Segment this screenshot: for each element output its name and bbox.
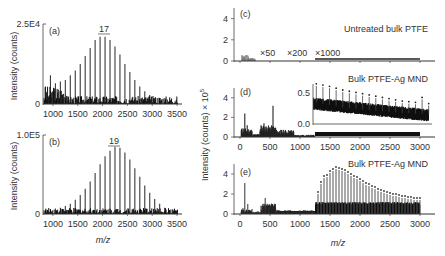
svg-text:2500: 2500 [380, 142, 400, 152]
panel-c: 420 (c) Untreated bulk PTFE ×50 ×200 ×10… [223, 8, 435, 66]
panel-e-label: (e) [240, 167, 251, 177]
panel-b-ytick-top: 1.0E5 [16, 130, 40, 140]
right-ylabel: Intensity (counts) × 105 [199, 88, 210, 181]
inset-ytick-zero: 0.0 [297, 119, 310, 129]
svg-text:0: 0 [237, 142, 242, 152]
svg-text:2000: 2000 [93, 219, 113, 229]
svg-text:2000: 2000 [93, 109, 113, 119]
svg-text:2000: 2000 [350, 142, 370, 152]
svg-text:2000: 2000 [350, 219, 370, 229]
svg-text:3000: 3000 [142, 109, 162, 119]
panel-b-ytick-zero: 0 [35, 209, 40, 219]
panel-a-peak-annotation: 17 [99, 24, 109, 34]
panel-a-ylabel: Intensity (counts) [9, 32, 19, 101]
panel-a-ytick-zero: 0 [35, 99, 40, 109]
panel-a-xticks: 100015002000250030003500 [43, 104, 187, 119]
panel-e: 420 050010001500200025003000 (e) Bulk PT… [223, 159, 435, 248]
svg-text:3000: 3000 [142, 219, 162, 229]
panel-b-noise [44, 208, 177, 214]
panel-e-xlabel: m/z [331, 238, 346, 248]
svg-text:1000: 1000 [290, 219, 310, 229]
panel-d-label: (d) [240, 87, 251, 97]
panel-e-title: Bulk PTFE-Ag MND [348, 159, 429, 169]
svg-text:0: 0 [237, 219, 242, 229]
svg-text:1000: 1000 [43, 109, 63, 119]
svg-text:0: 0 [223, 209, 228, 219]
svg-text:0: 0 [223, 132, 228, 142]
panel-b-xlabel: m/z [96, 235, 111, 245]
svg-text:1500: 1500 [320, 219, 340, 229]
svg-text:1500: 1500 [68, 219, 88, 229]
panel-c-title: Untreated bulk PTFE [344, 24, 428, 34]
svg-text:1500: 1500 [68, 109, 88, 119]
svg-text:2: 2 [223, 189, 228, 199]
svg-text:3500: 3500 [167, 219, 187, 229]
panel-b-ylabel: Intensity (counts) [9, 142, 19, 211]
svg-text:3000: 3000 [410, 142, 430, 152]
panel-a-bars [45, 37, 174, 104]
svg-text:1000: 1000 [290, 142, 310, 152]
svg-text:4: 4 [223, 93, 228, 103]
svg-text:2500: 2500 [380, 219, 400, 229]
panel-d-title: Bulk PTFE-Ag MND [348, 74, 429, 84]
inset-ytick-top: 0.5 [297, 88, 310, 98]
svg-text:Intensity (counts) × 105: Intensity (counts) × 105 [199, 88, 210, 181]
svg-text:4: 4 [223, 169, 228, 179]
svg-text:2: 2 [223, 35, 228, 45]
panel-a: 2.5E4 0 (a) 17 100015002000250030003500 [16, 19, 187, 119]
svg-text:2500: 2500 [117, 219, 137, 229]
panel-b-bars [45, 147, 174, 214]
mass-spectra-figure: 2.5E4 0 (a) 17 100015002000250030003500 … [0, 0, 445, 256]
svg-text:2500: 2500 [117, 109, 137, 119]
panel-c-x200: ×200 [287, 48, 307, 58]
panel-b-peak-annotation: 19 [109, 136, 119, 146]
panel-b: 1.0E5 0 (b) 19 100015002000250030003500 … [16, 130, 187, 245]
svg-text:1000: 1000 [43, 219, 63, 229]
svg-text:1500: 1500 [320, 142, 340, 152]
svg-text:3000: 3000 [410, 219, 430, 229]
panel-a-ytick-top: 2.5E4 [16, 19, 40, 29]
svg-text:3500: 3500 [167, 109, 187, 119]
svg-text:4: 4 [223, 14, 228, 24]
svg-text:0: 0 [223, 56, 228, 66]
svg-text:500: 500 [262, 142, 277, 152]
panel-c-x1000: ×1000 [315, 48, 340, 58]
panel-c-label: (c) [240, 9, 251, 19]
panel-a-noise [44, 87, 177, 104]
panel-b-xticks: 100015002000250030003500 [43, 214, 187, 229]
panel-a-label: (a) [49, 26, 60, 36]
svg-text:500: 500 [262, 219, 277, 229]
panel-d: 420 050010001500200025003000 (d) Bulk PT… [223, 74, 435, 152]
svg-text:2: 2 [223, 112, 228, 122]
panel-d-inset: 0.5 0.0 [297, 83, 432, 129]
panel-c-x50: ×50 [260, 48, 275, 58]
panel-b-label: (b) [49, 137, 60, 147]
